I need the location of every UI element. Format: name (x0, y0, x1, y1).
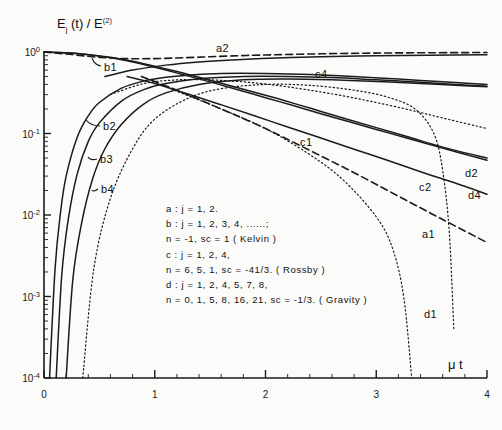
curve-label-d1: d1 (424, 308, 437, 320)
curve-label-d4: d4 (468, 189, 481, 201)
legend-line: b : j = 1, 2, 3, 4, ......; (166, 218, 269, 229)
legend-line: a : j = 1, 2. (166, 203, 218, 214)
curve-label-a1: a1 (422, 228, 435, 240)
energy-spectrum-chart: 10010-110-210-310-401234 a2c4b1b2b3b4c1c… (0, 0, 502, 430)
x-tick-label: 2 (263, 389, 269, 400)
x-tick-label: 3 (373, 389, 379, 400)
x-tick-label: 0 (41, 389, 47, 400)
curve-label-c1: c1 (300, 136, 313, 148)
curve-label-c4: c4 (315, 68, 328, 80)
legend-line: c : j = 1, 2, 4, (166, 249, 230, 260)
legend-line: d : j = 1, 2, 4, 5, 7, 8, (166, 279, 268, 290)
curve-label-c2: c2 (419, 181, 432, 193)
chart-background (0, 0, 502, 430)
x-tick-label: 4 (484, 389, 490, 400)
curve-label-b2: b2 (103, 120, 116, 132)
x-axis-title-text: μ t (448, 357, 463, 372)
legend-line: n = 0, 1, 5, 8, 16, 21, sc = -1/3. ( Gra… (166, 294, 367, 305)
curve-label-b4: b4 (101, 183, 114, 195)
curve-label-a2: a2 (216, 42, 229, 54)
curve-label-b3: b3 (100, 153, 113, 165)
legend-line: n = -1, sc = 1 ( Kelvin ) (166, 233, 277, 244)
legend-line: n = 6, 5, 1, sc = -41/3. ( Rossby ) (166, 264, 325, 275)
curve-label-b1: b1 (104, 61, 117, 73)
x-axis-title: μ t (448, 357, 463, 372)
curve-label-d2: d2 (465, 167, 478, 179)
x-tick-label: 1 (152, 389, 158, 400)
